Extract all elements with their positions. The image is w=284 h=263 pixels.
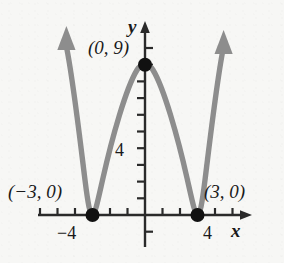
point-0-9: [138, 58, 152, 72]
point-3-0: [191, 208, 205, 222]
graph-figure: (0, 9) (−3, 0) (3, 0) −4 4 4 y x: [0, 0, 284, 263]
y-axis-label: y: [128, 17, 136, 36]
curve-right-arrow-icon: [215, 30, 233, 54]
x-axis-label: x: [231, 221, 241, 240]
curve-left-arrow-icon: [57, 26, 75, 50]
y-tick-label-4: 4: [115, 141, 124, 159]
point-label-minus3-0: (−3, 0): [8, 182, 62, 201]
coordinate-plot: [0, 0, 284, 263]
point-label-3-0: (3, 0): [204, 182, 245, 201]
y-axis-arrow-icon: [140, 21, 150, 33]
x-tick-label-minus4: −4: [57, 224, 76, 242]
point-label-0-9: (0, 9): [88, 38, 129, 57]
x-axis-arrow-icon: [240, 210, 252, 220]
point-minus3-0: [86, 208, 100, 222]
x-tick-label-4: 4: [203, 224, 212, 242]
